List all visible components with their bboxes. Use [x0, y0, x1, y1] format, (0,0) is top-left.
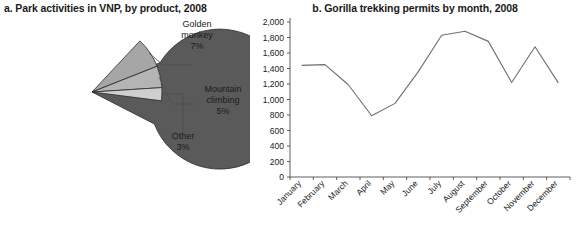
pie-label-mountain-climbing-name2: climbing: [206, 95, 239, 105]
pie-label-golden-monkey: Golden monkey 7%: [168, 19, 226, 52]
pie-label-gorilla-pct: 85%: [52, 87, 70, 97]
line-chart-panel: b. Gorilla trekking permits by month, 20…: [250, 0, 580, 233]
y-axis-ticks: 02004006008001,0001,2001,4001,6001,8002,…: [263, 17, 290, 182]
x-tick-label: April: [354, 178, 373, 197]
y-tick-label: 0: [279, 172, 284, 182]
pie-label-mountain-climbing-name1: Mountain: [204, 84, 241, 94]
y-tick-label: 1,800: [263, 33, 285, 43]
pie-label-gorilla-name: Gorilla: [48, 76, 74, 86]
x-tick-label: March: [326, 178, 350, 202]
y-tick-label: 1,400: [263, 64, 285, 74]
y-tick-label: 800: [270, 110, 284, 120]
y-tick-label: 1,200: [263, 79, 285, 89]
x-tick-label: June: [400, 178, 420, 198]
y-tick-label: 600: [270, 126, 284, 136]
pie-label-other-pct: 3%: [176, 142, 189, 152]
y-tick-label: 1,000: [263, 95, 285, 105]
y-tick-label: 400: [270, 141, 284, 151]
y-tick-label: 1,600: [263, 48, 285, 58]
pie-label-other-name: Other: [172, 131, 195, 141]
line-chart-graphic: 02004006008001,0001,2001,4001,6001,8002,…: [250, 0, 580, 233]
x-tick-label: May: [378, 178, 397, 197]
pie-label-mountain-climbing-pct: 5%: [216, 106, 229, 116]
y-tick-label: 2,000: [263, 17, 285, 27]
pie-label-golden-monkey-name1: Golden: [182, 19, 211, 29]
pie-label-golden-monkey-pct: 7%: [190, 41, 203, 51]
x-tick-label: July: [425, 178, 443, 196]
y-tick-label: 200: [270, 157, 284, 167]
line-series-permits: [302, 31, 559, 115]
pie-label-golden-monkey-name2: monkey: [181, 30, 213, 40]
pie-label-mountain-climbing: Mountain climbing 5%: [192, 84, 254, 117]
pie-label-gorilla: Gorilla 85%: [33, 76, 89, 98]
pie-chart-panel: a. Park activities in VNP, by product, 2…: [0, 0, 250, 233]
x-axis-labels: JanuaryFebruaryMarchAprilMayJuneJulyAugu…: [275, 178, 560, 215]
pie-label-other: Other 3%: [162, 131, 204, 153]
